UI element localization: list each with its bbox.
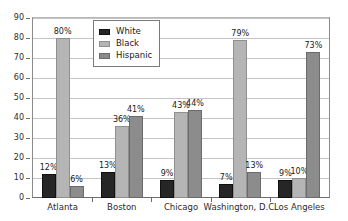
y-tick-label: 20 [14,154,24,162]
y-tick-mark [26,38,30,39]
y-tick-label: 10 [14,174,24,182]
y-tick-label: 60 [14,74,24,82]
y-tick-mark [26,118,30,119]
legend: White Black Hispanic [93,20,160,67]
bar-hispanic-boston [129,116,143,198]
y-tick-label: 40 [14,114,24,122]
y-tick-mark [26,138,30,139]
y-tick-label: 80 [14,34,24,42]
bar-black-atlanta [56,38,70,198]
bar-hispanic-atlanta [70,186,84,198]
bar-black-chicago [174,112,188,198]
bar-value-label: 6% [70,176,83,184]
legend-swatch-icon-hispanic [99,53,110,59]
bar-chart: 0102030405060708090 12%80%6%13%36%41%9%4… [0,0,348,221]
x-axis: AtlantaBostonChicagoWashington, D.C.Los … [33,203,329,219]
y-tick-label: 90 [14,14,24,22]
y-tick-mark [26,18,30,19]
bar-hispanic-washington-d-c [247,172,261,198]
y-tick-label: 30 [14,134,24,142]
legend-item-hispanic: Hispanic [99,50,152,61]
x-tick-mark [92,198,93,202]
bar-value-label: 79% [231,30,249,38]
bar-value-label: 73% [305,42,323,50]
legend-swatch-icon-black [99,41,110,47]
y-tick-mark [26,158,30,159]
y-tick-label: 70 [14,54,24,62]
bar-value-label: 80% [54,28,72,36]
x-tick-label: Boston [107,203,136,212]
bar-white-los-angeles [278,180,292,198]
legend-label-black: Black [116,39,139,48]
legend-swatch-icon-white [99,29,110,35]
x-tick-label: Chicago [164,203,198,212]
y-tick-mark [26,198,30,199]
bar-white-boston [101,172,115,198]
bar-hispanic-los-angeles [306,52,320,198]
legend-label-hispanic: Hispanic [116,51,152,60]
bar-hispanic-chicago [188,110,202,198]
y-tick-label: 0 [19,194,24,202]
x-tick-label: Atlanta [47,203,78,212]
legend-label-white: White [116,27,141,36]
y-tick-mark [26,58,30,59]
bar-value-label: 9% [161,170,174,178]
bar-black-los-angeles [292,178,306,198]
y-tick-mark [26,78,30,79]
bar-value-label: 13% [245,162,263,170]
legend-item-black: Black [99,38,152,49]
bar-value-label: 44% [186,100,204,108]
y-tick-mark [26,178,30,179]
bar-white-chicago [160,180,174,198]
y-tick-label: 50 [14,94,24,102]
bar-black-washington-d-c [233,40,247,198]
y-axis: 0102030405060708090 [0,17,30,198]
legend-item-white: White [99,26,152,37]
x-tick-label: Washington, D.C. [204,203,277,212]
bar-white-washington-d-c [219,184,233,198]
bars-layer: 12%80%6%13%36%41%9%43%44%7%79%13%9%10%73… [33,18,329,198]
bar-value-label: 7% [220,174,233,182]
bar-black-boston [115,126,129,198]
x-tick-mark [151,198,152,202]
bar-value-label: 41% [127,106,145,114]
bar-white-atlanta [42,174,56,198]
x-tick-label: Los Angeles [274,203,325,212]
y-tick-mark [26,98,30,99]
